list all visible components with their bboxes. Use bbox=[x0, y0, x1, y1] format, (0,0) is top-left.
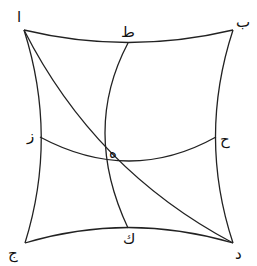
label-ba: ب bbox=[236, 13, 250, 31]
arc-alif-dal bbox=[24, 30, 233, 243]
arc-zay-ha bbox=[40, 137, 216, 161]
arc-ta-kaf bbox=[105, 43, 128, 228]
label-alif: ا bbox=[17, 8, 21, 26]
label-he: ه bbox=[109, 144, 117, 162]
label-dal: د bbox=[235, 245, 242, 263]
geometric-diagram: ا ب ط ج د ك ز ح ه bbox=[0, 0, 257, 266]
label-ha: ح bbox=[220, 131, 230, 149]
label-kaf: ك bbox=[123, 230, 135, 248]
label-zay: ز bbox=[26, 127, 34, 145]
label-ta: ط bbox=[121, 23, 135, 41]
label-jim: ج bbox=[8, 244, 18, 263]
